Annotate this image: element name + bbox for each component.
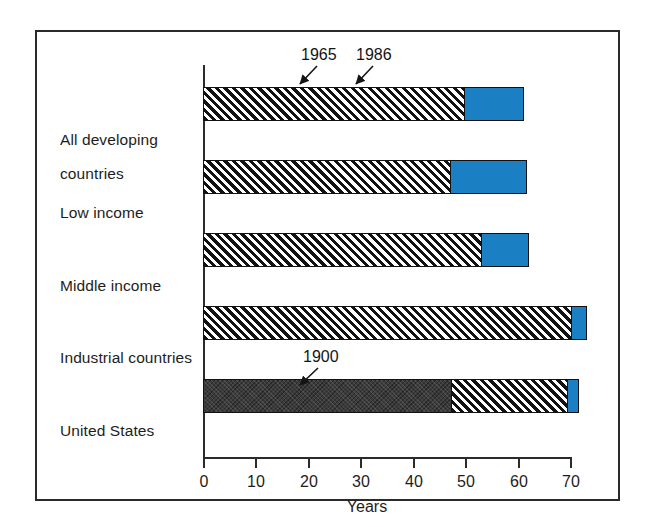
- bar-all-developing-countries: [203, 87, 524, 121]
- bar-united-states: [203, 379, 579, 413]
- x-tick-10: [255, 457, 257, 468]
- category-label-line1: All developing: [60, 131, 158, 148]
- bar-industrial-countries: [203, 306, 587, 340]
- x-tick-40: [413, 457, 415, 468]
- category-label-line2: countries: [60, 165, 124, 182]
- x-tick-label-70: 70: [551, 473, 591, 491]
- bar-segment-1965: [203, 233, 482, 267]
- x-tick-label-10: 10: [236, 473, 276, 491]
- category-label-line1: Middle income: [60, 277, 161, 294]
- x-tick-0: [203, 457, 205, 468]
- x-axis-label: Years: [347, 498, 387, 516]
- bar-segment-1986: [571, 306, 587, 340]
- x-tick-30: [360, 457, 362, 468]
- x-tick-label-40: 40: [394, 473, 434, 491]
- x-tick-label-30: 30: [341, 473, 381, 491]
- x-tick-label-50: 50: [446, 473, 486, 491]
- category-label-line1: Industrial countries: [60, 349, 192, 366]
- x-tick-70: [570, 457, 572, 468]
- bar-segment-1986: [450, 160, 527, 194]
- bar-segment-1965: [451, 379, 569, 413]
- chart-frame: All developing countries Low income Midd…: [35, 30, 620, 501]
- x-tick-label-20: 20: [289, 473, 329, 491]
- bar-segment-1965: [203, 87, 465, 121]
- x-tick-60: [518, 457, 520, 468]
- x-tick-20: [308, 457, 310, 468]
- category-label-industrial-countries: Industrial countries: [60, 332, 192, 366]
- bar-middle-income: [203, 233, 529, 267]
- x-axis-line: [203, 457, 572, 459]
- category-label-line1: Low income: [60, 204, 144, 221]
- annotation-arrow-1965: [282, 62, 332, 92]
- bar-segment-1986: [567, 379, 579, 413]
- x-tick-50: [465, 457, 467, 468]
- annotation-arrow-1986: [337, 62, 387, 92]
- category-label-all-developing-countries: All developing countries: [60, 114, 158, 182]
- category-label-united-states: United States: [60, 405, 154, 439]
- category-label-middle-income: Middle income: [60, 260, 161, 294]
- bar-segment-1965: [203, 306, 572, 340]
- plot-area: All developing countries Low income Midd…: [37, 32, 618, 499]
- bar-segment-1965: [203, 160, 451, 194]
- x-tick-label-60: 60: [499, 473, 539, 491]
- bar-low-income: [203, 160, 527, 194]
- category-label-line1: United States: [60, 422, 154, 439]
- category-label-low-income: Low income: [60, 187, 144, 221]
- x-tick-label-0: 0: [184, 473, 224, 491]
- bar-segment-1986: [464, 87, 524, 121]
- bar-segment-1986: [481, 233, 529, 267]
- chart-figure: All developing countries Low income Midd…: [0, 0, 654, 527]
- annotation-arrow-1900: [280, 364, 330, 394]
